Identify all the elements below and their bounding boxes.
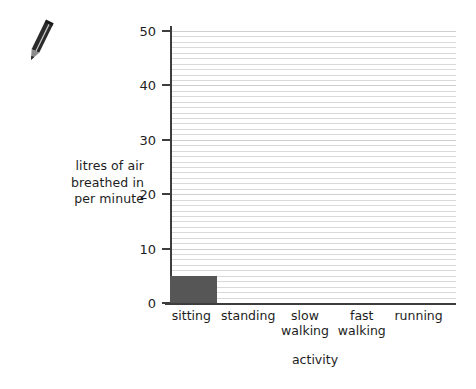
y-axis-tick-label: 30	[116, 132, 156, 147]
x-axis-tick-label: slowwalking	[281, 308, 329, 338]
bar	[170, 276, 217, 303]
pencil-icon	[18, 17, 62, 65]
bar-series	[172, 31, 456, 303]
chart-page: litres of air breathed in per minute 010…	[0, 0, 476, 389]
x-axis-tick-label: standing	[221, 308, 275, 323]
y-axis-tick	[162, 302, 170, 304]
y-axis-tick-labels: 01020304050	[112, 0, 156, 389]
y-axis-tick-label: 40	[116, 78, 156, 93]
y-axis-tick-label: 50	[116, 24, 156, 39]
x-axis-tick-label-line: fast	[338, 308, 386, 323]
x-axis-title: activity	[170, 352, 460, 367]
x-axis-tick-label: fastwalking	[338, 308, 386, 338]
x-axis-line	[165, 303, 456, 305]
x-axis-tick-label-line: running	[394, 308, 442, 323]
x-axis-tick-label-line: standing	[221, 308, 275, 323]
y-axis-tick	[162, 193, 170, 195]
x-axis-tick-label-line: sitting	[172, 308, 211, 323]
y-axis-tick-label: 20	[116, 187, 156, 202]
x-axis-tick-label: sitting	[172, 308, 211, 323]
y-axis-tick-label: 0	[116, 296, 156, 311]
x-axis-tick-label-line: walking	[281, 323, 329, 338]
x-axis-tick-labels: sittingstandingslowwalkingfastwalkingrun…	[170, 308, 460, 348]
x-axis-tick-label-line: slow	[281, 308, 329, 323]
x-axis-tick-label: running	[394, 308, 442, 323]
y-axis-tick	[162, 30, 170, 32]
x-axis-tick-label-line: walking	[338, 323, 386, 338]
y-axis-tick	[162, 84, 170, 86]
y-axis-tick-label: 10	[116, 241, 156, 256]
y-axis-tick	[162, 248, 170, 250]
y-axis-tick	[162, 139, 170, 141]
